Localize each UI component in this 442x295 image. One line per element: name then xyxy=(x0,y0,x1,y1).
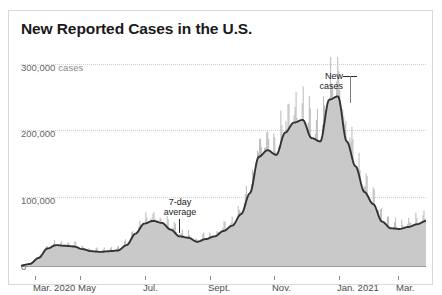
annotation-seven-day-line1: 7-day xyxy=(153,197,207,207)
x-axis-tick-2 xyxy=(145,276,146,280)
area-fill xyxy=(21,96,426,266)
x-axis-label-mar-2020: Mar. 2020 xyxy=(33,282,75,293)
x-axis-label-jul: Jul. xyxy=(143,282,158,293)
x-axis-tick-3 xyxy=(210,276,211,280)
annotation-new-cases: New cases xyxy=(301,71,343,92)
page-title: New Reported Cases in the U.S. xyxy=(21,20,252,38)
x-axis: Mar. 2020 May Jul. Sept. Nov. Jan. 2021 … xyxy=(21,276,426,295)
x-axis-tick-0 xyxy=(35,276,36,280)
annotation-new-cases-leader-vertical xyxy=(350,76,351,103)
annotation-seven-day-line2: average xyxy=(153,207,207,217)
x-axis-label-may: May xyxy=(78,282,96,293)
annotation-seven-day-average: 7-day average xyxy=(153,197,207,218)
chart-canvas xyxy=(21,57,426,276)
plot-area xyxy=(21,57,426,276)
annotation-seven-day-leader-line xyxy=(179,219,180,233)
x-axis-tick-1 xyxy=(80,276,81,280)
chart-card: New Reported Cases in the U.S. 300,000ca… xyxy=(8,10,433,285)
x-axis-tick-4 xyxy=(274,276,275,280)
x-axis-label-mar: Mar. xyxy=(396,282,414,293)
x-axis-label-jan-2021: Jan. 2021 xyxy=(337,282,379,293)
chart-svg xyxy=(21,57,426,276)
x-axis-label-sept: Sept. xyxy=(208,282,230,293)
x-axis-label-nov: Nov. xyxy=(272,282,291,293)
x-axis-tick-6 xyxy=(398,276,399,280)
annotation-new-cases-line1: New xyxy=(301,71,343,81)
annotation-new-cases-line2: cases xyxy=(301,81,343,91)
x-axis-tick-5 xyxy=(339,276,340,280)
